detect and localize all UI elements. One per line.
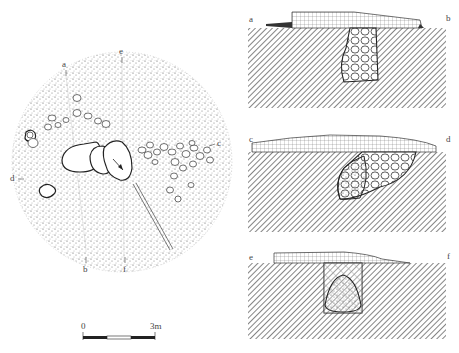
scale-label-start: 0 [81,322,86,331]
plan-label-d: d [10,174,15,183]
plan-label-e: e [119,47,123,56]
section-label-b: b [446,14,451,23]
plan-label-c: c [217,139,221,148]
scale-bar [83,332,155,340]
section-a-b [248,12,446,108]
plan-view [12,52,232,272]
section-label-f: f [447,252,450,261]
section-c-d [248,135,446,232]
section-e-f [248,252,446,339]
section-label-c: c [249,135,253,144]
excavation-drawing [0,0,459,353]
section-label-d: d [446,135,451,144]
plan-label-f: f [123,265,126,274]
section-label-e: e [249,253,253,262]
section-label-a: a [249,15,253,24]
plan-label-b: b [83,265,88,274]
plan-label-a: a [62,60,66,69]
scale-label-end: 3m [150,322,162,331]
